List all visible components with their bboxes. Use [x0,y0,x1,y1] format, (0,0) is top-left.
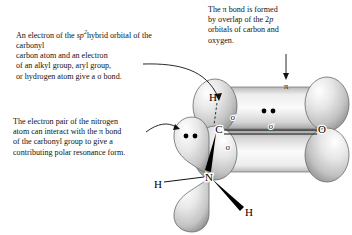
atom-symbol-oxygen: O [318,123,326,135]
atom-label-C: C [215,123,222,135]
pi-caption-line1: The π bond is formed [208,5,278,14]
atom-symbol-carbon: C [215,123,222,135]
sigma-label-co: σ [269,121,274,131]
n-h-plain-bond [164,177,204,182]
lone-pair-caption: The electron pair of the nitrogen atom c… [13,117,161,158]
sigma-caption-sp: sp [77,31,84,40]
sigma-bond-caption: An electron of the sp2hybrid orbital of … [16,27,156,82]
pi-caption-p: p [269,15,273,24]
pi-caption-line3: orbitals of carbon and [208,25,279,34]
pi-caption-line4: oxygen. [208,36,234,45]
atom-symbol-nitrogen: N [205,171,213,183]
atom-label-H-carbon: H [209,91,217,103]
nitrogen-lower-lobe [174,177,209,232]
sigma-caption-line1-pre: An electron of the [16,31,77,40]
oxygen-2p-lower-lobe [305,128,349,182]
atom-symbol-hydrogen-n-left: H [154,178,162,190]
oxygen-2p-upper-lobe [305,77,349,131]
pi-bond-caption: The π bond is formedby overlap of the 2p… [208,5,313,46]
nitrogen-lone-pair-lobe [174,117,209,177]
atom-label-H-nitrogen-right: H [245,206,253,218]
pi-caption-line2-pre: by overlap of the 2 [208,15,269,24]
n-h-wedge-bond [212,179,244,211]
sigma-label-ch: σ [231,112,236,122]
atom-symbol-hydrogen-c: H [209,91,217,103]
pi-label: π [284,81,289,91]
pi-leader-arrow [283,54,289,80]
figure-canvas: C O N H H H σ σ σ π An electron of the s… [0,0,352,235]
atom-label-O: O [318,123,326,135]
sigma-label-cn: σ [226,142,231,152]
atom-label-H-nitrogen-left: H [154,178,162,190]
atom-symbol-hydrogen-n-right: H [245,206,253,218]
atom-label-N: N [205,171,213,183]
